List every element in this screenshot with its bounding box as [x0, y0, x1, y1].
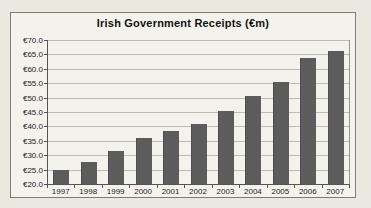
y-tick-label: €25.0: [9, 166, 43, 175]
y-tick-label: €20.0: [9, 180, 43, 189]
bar-1998: [81, 162, 97, 184]
x-tick-label: 2000: [129, 187, 156, 196]
gridline-65: [47, 54, 349, 55]
x-tick-label: 2001: [157, 187, 184, 196]
bar-2001: [163, 131, 179, 184]
chart-title: Irish Government Receipts (€m): [10, 17, 356, 29]
x-tick-label: 2005: [267, 187, 294, 196]
x-axis-tick: [294, 185, 295, 188]
x-tick-label: 1997: [47, 187, 74, 196]
bar-2006: [300, 58, 316, 184]
y-tick-label: €30.0: [9, 151, 43, 160]
x-axis-tick: [212, 185, 213, 188]
y-tick-label: €45.0: [9, 108, 43, 117]
y-tick-label: €50.0: [9, 94, 43, 103]
x-axis-tick: [102, 185, 103, 188]
y-tick-label: €65.0: [9, 50, 43, 59]
bar-1999: [108, 151, 124, 184]
x-tick-label: 2003: [212, 187, 239, 196]
y-tick-label: €70.0: [9, 36, 43, 45]
x-axis-tick: [267, 185, 268, 188]
x-axis-tick: [157, 185, 158, 188]
x-axis-tick: [47, 185, 48, 188]
x-tick-label: 2002: [184, 187, 211, 196]
x-tick-label: 2007: [322, 187, 349, 196]
bar-1997: [53, 170, 69, 184]
bar-2004: [245, 96, 261, 184]
chart-screenshot: { "chart_data": { "type": "bar", "title"…: [0, 0, 371, 208]
x-tick-label: 1998: [74, 187, 101, 196]
x-axis-tick: [322, 185, 323, 188]
bar-2002: [191, 124, 207, 184]
x-tick-label: 2006: [294, 187, 321, 196]
x-axis-tick: [184, 185, 185, 188]
y-tick-label: €55.0: [9, 79, 43, 88]
plot-right-border: [349, 40, 350, 184]
x-tick-label: 1999: [102, 187, 129, 196]
x-axis-line: [47, 184, 350, 185]
bar-2005: [273, 82, 289, 184]
x-axis-tick: [239, 185, 240, 188]
bar-2003: [218, 111, 234, 184]
y-tick-label: €40.0: [9, 122, 43, 131]
bar-2000: [136, 138, 152, 184]
y-tick-label: €60.0: [9, 65, 43, 74]
bar-2007: [328, 51, 344, 184]
x-axis-tick: [74, 185, 75, 188]
y-axis-line: [47, 40, 48, 184]
x-tick-label: 2004: [239, 187, 266, 196]
x-axis-tick: [129, 185, 130, 188]
y-tick-label: €35.0: [9, 137, 43, 146]
x-axis-tick: [349, 185, 350, 188]
gridline-70: [47, 40, 349, 41]
